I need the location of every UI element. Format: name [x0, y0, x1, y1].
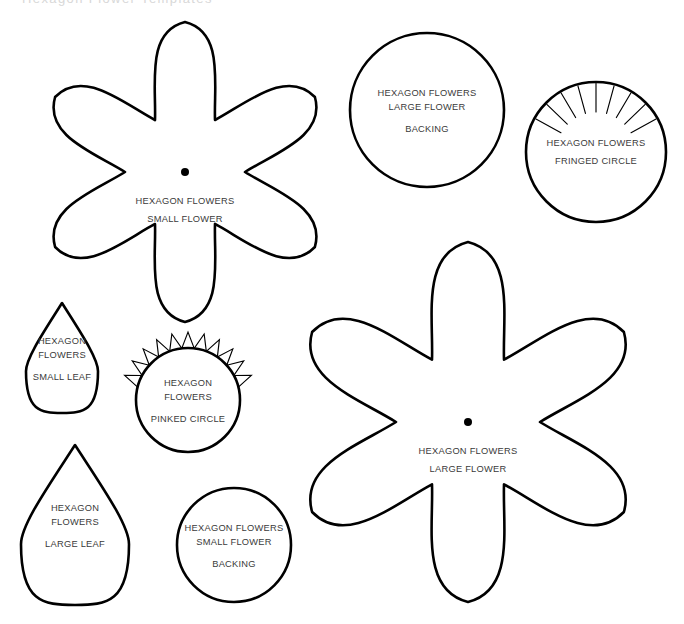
template-large-flower-backing[interactable]: HEXAGON FLOWERSLARGE FLOWERBACKING	[350, 33, 504, 187]
template-fringed-circle[interactable]: HEXAGON FLOWERSFRINGED CIRCLE	[526, 82, 666, 222]
template-small-flower-backing[interactable]: HEXAGON FLOWERSSMALL FLOWERBACKING	[177, 488, 291, 602]
template-small-flower[interactable]: HEXAGON FLOWERSSMALL FLOWER	[54, 22, 317, 322]
label-name-line: LARGE FLOWER	[430, 464, 507, 474]
label-brand-line: HEXAGON FLOWERS	[378, 88, 477, 98]
label-brand-line: HEXAGON	[51, 503, 99, 513]
label-brand-line: HEXAGON FLOWERS	[547, 138, 646, 148]
label-brand-line: HEXAGON	[164, 378, 212, 388]
label-name-line: SMALL LEAF	[33, 372, 92, 382]
label-name-line: BACKING	[212, 559, 256, 569]
center-dot-marker	[464, 418, 472, 426]
label-name-line: SMALL FLOWER	[196, 537, 272, 547]
label-name-line: FLOWERS	[38, 350, 86, 360]
label-name-line: BACKING	[405, 124, 449, 134]
label-brand-line: HEXAGON FLOWERS	[136, 196, 235, 206]
template-small-leaf[interactable]: HEXAGONFLOWERSSMALL LEAF	[26, 303, 98, 413]
label-name-line: LARGE FLOWER	[389, 102, 466, 112]
cut-template-canvas: HEXAGON FLOWERSSMALL FLOWERHEXAGON FLOWE…	[0, 0, 684, 624]
template-large-leaf[interactable]: HEXAGONFLOWERSLARGE LEAF	[21, 445, 129, 605]
label-name-line: LARGE LEAF	[45, 539, 105, 549]
label-name-line: PINKED CIRCLE	[151, 414, 226, 424]
label-brand-line: HEXAGON FLOWERS	[185, 523, 284, 533]
template-pinked-circle[interactable]: HEXAGONFLOWERSPINKED CIRCLE	[125, 332, 252, 452]
label-name-line: FRINGED CIRCLE	[555, 156, 637, 166]
template-large-flower[interactable]: HEXAGON FLOWERSLARGE FLOWER	[310, 242, 626, 602]
label-brand-line: HEXAGON	[38, 336, 86, 346]
template-sheet: Hexagon Flower Templates HEXAGON FLOWERS…	[0, 0, 684, 624]
label-brand-line: HEXAGON FLOWERS	[419, 446, 518, 456]
label-name-line: FLOWERS	[164, 392, 212, 402]
label-name-line: FLOWERS	[51, 517, 99, 527]
label-name-line: SMALL FLOWER	[147, 214, 223, 224]
center-dot-marker	[181, 168, 189, 176]
